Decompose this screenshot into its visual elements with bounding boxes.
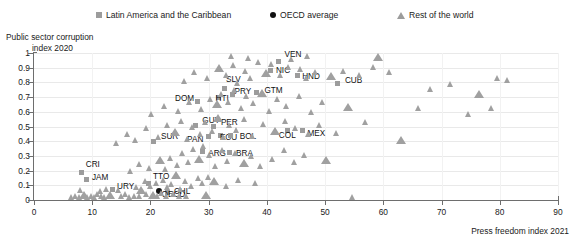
data-point (212, 100, 222, 108)
data-point (177, 186, 183, 192)
data-point (283, 103, 289, 109)
data-point-dom (195, 99, 200, 104)
x-axis-tick-label: 0 (32, 207, 37, 217)
data-point (201, 191, 211, 199)
data-point (197, 131, 203, 137)
y-axis-tick-labels: 10.90.80.70.60.50.40.30.20.10 (0, 53, 30, 200)
data-point (167, 155, 173, 161)
x-axis-tick (150, 200, 151, 205)
data-point (277, 72, 283, 78)
data-point (199, 180, 205, 186)
data-point (282, 118, 288, 124)
legend-item-rest-of-world[interactable]: Rest of the world (397, 8, 473, 22)
data-point (148, 111, 154, 117)
data-point (188, 183, 194, 189)
data-point (163, 193, 169, 199)
data-point (191, 69, 197, 75)
data-point (230, 62, 236, 68)
x-axis-tick-label: 20 (146, 207, 155, 217)
legend-item-oecd-average[interactable]: OECD average (270, 8, 338, 22)
y-axis-tick-label: 0.9 (4, 63, 30, 73)
data-point (248, 153, 254, 159)
data-point (504, 77, 510, 83)
data-point (465, 111, 471, 117)
data-point (260, 121, 266, 127)
gridline-horizontal (34, 156, 558, 157)
x-axis-tick-label: 10 (88, 207, 97, 217)
gridline-horizontal (34, 171, 558, 172)
data-point (255, 59, 261, 65)
gridline-vertical (500, 53, 501, 200)
dot-marker-icon (270, 12, 276, 18)
data-point (257, 89, 267, 97)
y-axis-line (33, 52, 34, 201)
data-point (242, 68, 248, 74)
data-point (115, 187, 121, 193)
data-point (494, 75, 500, 81)
data-point (189, 124, 195, 130)
data-point (143, 125, 149, 131)
gridline-vertical (442, 53, 443, 200)
data-point (427, 86, 433, 92)
y-axis-tick (28, 68, 33, 69)
legend-label: Rest of the world (409, 10, 473, 20)
data-point-bra (227, 150, 232, 155)
x-axis-tick (383, 200, 384, 205)
legend-item-latin-america[interactable]: Latin America and the Caribbean (96, 8, 231, 22)
gridline-vertical (150, 53, 151, 200)
data-point (224, 158, 230, 164)
y-axis-tick (28, 127, 33, 128)
x-axis-tick (209, 200, 210, 205)
y-axis-tick-label: 0 (4, 195, 30, 205)
data-point (124, 131, 130, 137)
data-point (181, 78, 187, 84)
data-point-cub (335, 81, 340, 86)
x-axis-tick-label: 70 (437, 207, 446, 217)
point-label-col: COL (279, 131, 296, 140)
data-point (214, 64, 224, 72)
data-point (202, 119, 208, 125)
data-point (174, 162, 180, 168)
data-point (231, 87, 237, 93)
data-point-ven (276, 59, 281, 64)
data-point (274, 96, 280, 102)
y-axis-tick-label: 0.4 (4, 136, 30, 146)
x-axis-title: Press freedom index 2021 (471, 226, 569, 236)
data-point (304, 53, 310, 59)
data-point (175, 108, 181, 114)
data-point (488, 105, 494, 111)
x-axis-tick (558, 200, 559, 205)
data-point (281, 147, 287, 153)
data-point (233, 127, 239, 133)
data-point (103, 186, 109, 192)
y-axis-tick (28, 156, 33, 157)
chart-legend: Latin America and the Caribbean OECD ave… (0, 0, 572, 28)
data-point (155, 134, 161, 140)
data-point (249, 133, 255, 139)
data-point (176, 193, 182, 199)
data-point (396, 136, 406, 144)
data-point (178, 118, 184, 124)
y-axis-tick-label: 0.7 (4, 92, 30, 102)
data-point (288, 56, 294, 62)
y-axis-tick-label: 0.5 (4, 122, 30, 132)
data-point (77, 187, 83, 193)
y-axis-cap-top (33, 52, 37, 53)
data-point (194, 155, 204, 163)
data-point (261, 69, 271, 77)
data-point (223, 183, 229, 189)
data-point (219, 147, 225, 153)
data-point (170, 128, 180, 136)
plot-area: CRIJAMURYTTOCHLSURGUYPERPANECUBOLARGBRAD… (34, 53, 558, 200)
data-point (266, 108, 272, 114)
x-axis-tick-label: 30 (204, 207, 213, 217)
gridline-horizontal (34, 112, 558, 113)
y-axis-tick (28, 171, 33, 172)
legend-label: Latin America and the Caribbean (106, 10, 231, 20)
gridline-horizontal (34, 82, 558, 83)
data-point (257, 163, 263, 169)
data-point (252, 180, 258, 186)
data-point (136, 186, 146, 194)
x-axis-tick (325, 200, 326, 205)
data-point (269, 156, 275, 162)
